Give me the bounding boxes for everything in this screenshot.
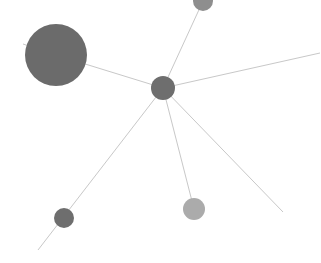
network-graph xyxy=(0,0,321,263)
nodes-layer xyxy=(25,0,213,228)
graph-node-top[interactable] xyxy=(193,0,213,11)
graph-edge xyxy=(38,88,163,250)
graph-edge xyxy=(163,53,320,88)
graph-node-bottom-left[interactable] xyxy=(54,208,74,228)
graph-edge xyxy=(163,88,194,209)
graph-node-bottom-light[interactable] xyxy=(183,198,205,220)
graph-edge xyxy=(163,88,283,212)
graph-node-center[interactable] xyxy=(151,76,175,100)
graph-edge xyxy=(163,1,203,88)
graph-node-large[interactable] xyxy=(25,24,87,86)
